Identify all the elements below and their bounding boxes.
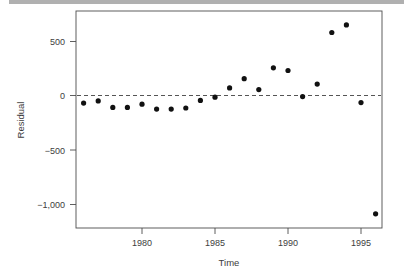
data-point — [285, 68, 290, 73]
data-point — [212, 95, 217, 100]
y-tick-label-neg1000: −1,000 — [37, 200, 65, 210]
y-axis-title: Residual — [15, 102, 26, 139]
data-point — [81, 101, 86, 106]
data-point — [169, 106, 174, 111]
data-point — [242, 76, 247, 81]
data-point — [125, 105, 130, 110]
x-axis-title: Time — [219, 257, 240, 268]
residual-scatter-chart: 500 0 −500 −1,000 Residual 1980 1985 199… — [0, 0, 404, 276]
data-point — [358, 100, 363, 105]
data-point — [154, 106, 159, 111]
screenshot-root: 500 0 −500 −1,000 Residual 1980 1985 199… — [0, 0, 404, 276]
x-axis: 1980 1985 1990 1995 — [132, 228, 371, 248]
data-point — [315, 82, 320, 87]
data-point — [344, 22, 349, 27]
y-axis: 500 0 −500 −1,000 — [37, 37, 76, 210]
y-tick-label-0: 0 — [60, 91, 65, 101]
y-tick-label-500: 500 — [50, 37, 65, 47]
data-point — [256, 87, 261, 92]
x-tick-label-1980: 1980 — [132, 238, 152, 248]
y-tick-label-neg500: −500 — [45, 146, 65, 156]
data-point — [329, 30, 334, 35]
data-point — [198, 98, 203, 103]
data-point — [300, 94, 305, 99]
data-point — [183, 105, 188, 110]
data-point — [271, 65, 276, 70]
chart-canvas: 500 0 −500 −1,000 Residual 1980 1985 199… — [0, 0, 404, 276]
x-tick-label-1990: 1990 — [278, 238, 298, 248]
plot-frame — [76, 11, 382, 228]
data-point — [110, 105, 115, 110]
x-tick-label-1985: 1985 — [205, 238, 225, 248]
data-point — [139, 102, 144, 107]
data-point — [96, 98, 101, 103]
x-tick-label-1995: 1995 — [351, 238, 371, 248]
data-point — [373, 211, 378, 216]
data-points-layer — [81, 22, 378, 216]
data-point — [227, 85, 232, 90]
